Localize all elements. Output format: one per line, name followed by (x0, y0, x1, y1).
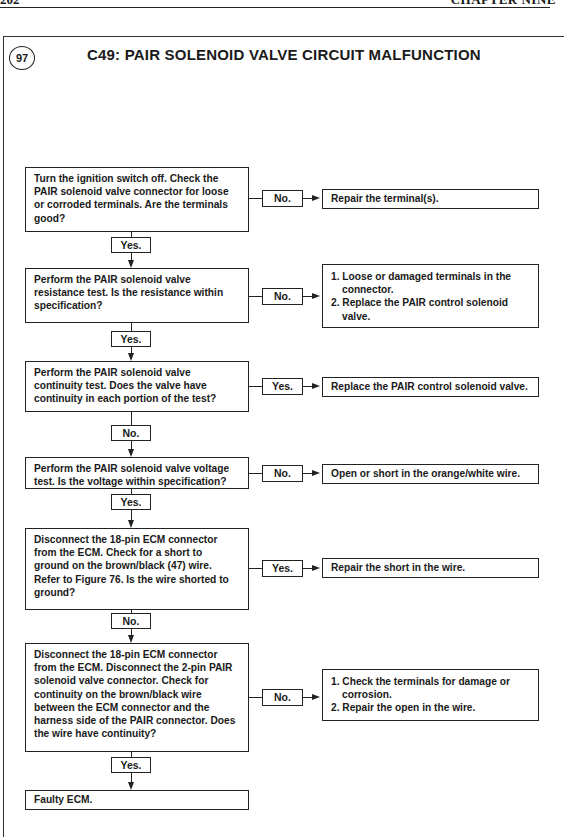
result-item: 1. Loose or damaged terminals in the con… (331, 270, 530, 296)
branch-label: Yes. (262, 560, 303, 577)
result-item: 1. Check the terminals for damage or cor… (331, 675, 530, 701)
arrow-right-icon (312, 470, 320, 476)
arrow-down-icon (128, 782, 134, 790)
result-item: 2. Repair the open in the wire. (331, 701, 530, 714)
step-5-result: Repair the short in the wire. (322, 558, 539, 578)
step-6-result: 1. Check the terminals for damage or cor… (322, 669, 539, 721)
down-label: Yes. (111, 237, 151, 253)
arrow-right-icon (312, 293, 320, 299)
down-label: No. (111, 425, 151, 441)
step-4-result: Open or short in the orange/white wire. (322, 464, 539, 484)
step-2-result: 1. Loose or damaged terminals in the con… (322, 264, 539, 328)
arrow-down-icon (128, 635, 134, 643)
figure-title: C49: PAIR SOLENOID VALVE CIRCUIT MALFUNC… (87, 46, 481, 63)
result-text: Open or short in the orange/white wire. (331, 467, 520, 480)
result-text: Repair the short in the wire. (331, 561, 465, 574)
down-label: Yes. (111, 757, 151, 773)
step-4-question: Perform the PAIR solenoid valve voltage … (25, 457, 249, 489)
step-1-question: Turn the ignition switch off. Check the … (25, 167, 249, 232)
branch-label: No. (262, 190, 303, 207)
arrow-right-icon (312, 565, 320, 571)
arrow-right-icon (312, 195, 320, 201)
branch-label: No. (262, 465, 303, 482)
step-1-result: Repair the terminal(s). (322, 189, 539, 209)
arrow-right-icon (312, 694, 320, 700)
arrow-down-icon (128, 520, 134, 528)
arrow-down-icon (128, 353, 134, 361)
step-3-question: Perform the PAIR solenoid valve continui… (25, 361, 249, 412)
branch-label: No. (262, 689, 303, 706)
arrow-right-icon (312, 383, 320, 389)
header-rule (0, 7, 550, 8)
branch-label: Yes. (262, 378, 303, 395)
arrow-down-icon (128, 449, 134, 457)
down-label: No. (111, 613, 151, 629)
arrow-down-icon (128, 260, 134, 268)
result-text: Replace the PAIR control solenoid valve. (331, 380, 528, 393)
result-text: Repair the terminal(s). (331, 192, 439, 205)
down-label: Yes. (111, 494, 151, 510)
branch-label: No. (262, 288, 303, 305)
step-2-question: Perform the PAIR solenoid valve resistan… (25, 268, 249, 323)
down-label: Yes. (111, 331, 151, 347)
figure-reference: Figure 76 (75, 574, 120, 585)
result-item: 2. Replace the PAIR control solenoid val… (331, 296, 530, 322)
step-6-question: Disconnect the 18-pin ECM connector from… (25, 643, 249, 752)
final-result: Faulty ECM. (25, 790, 249, 810)
step-3-result: Replace the PAIR control solenoid valve. (322, 377, 539, 397)
figure-number-badge: 97 (9, 46, 35, 70)
step-5-question: Disconnect the 18-pin ECM connector from… (25, 528, 249, 610)
